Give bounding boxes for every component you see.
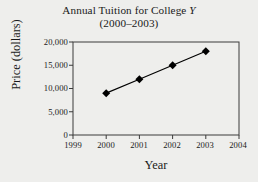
plot-area	[0, 0, 258, 182]
data-point-marker	[102, 89, 110, 97]
data-point-marker	[202, 47, 210, 55]
data-point-marker	[169, 61, 177, 69]
chart-figure: Annual Tuition for College Y (2000–2003)…	[0, 0, 258, 182]
data-point-marker	[135, 75, 143, 83]
data-line-series	[106, 51, 206, 93]
x-tick-marks	[73, 135, 239, 139]
plot-frame	[73, 42, 239, 135]
y-tick-marks	[69, 42, 73, 135]
